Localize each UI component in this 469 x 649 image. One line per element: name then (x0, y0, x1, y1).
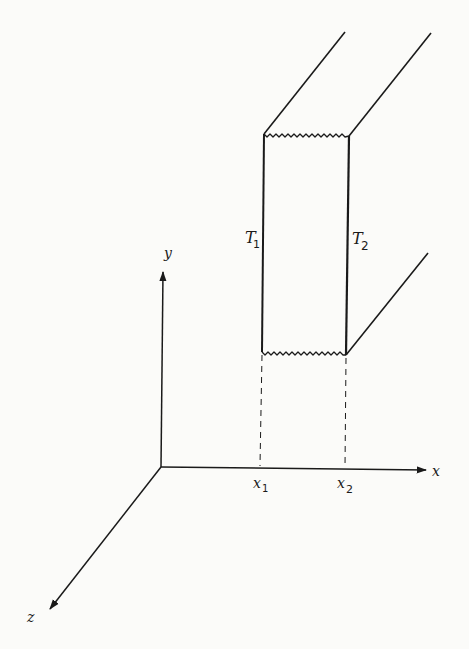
svg-text:1: 1 (262, 483, 268, 494)
x2-projection (345, 358, 346, 468)
tick-x2: x 2 (337, 475, 353, 496)
tick-x1: x 1 (253, 475, 268, 494)
svg-text:1: 1 (253, 238, 260, 251)
z-axis (50, 467, 161, 609)
svg-text:2: 2 (346, 483, 353, 496)
svg-text:2: 2 (361, 239, 369, 253)
label-T1: T 1 (245, 228, 260, 251)
slab-top-right-edge (349, 33, 431, 136)
label-T2: T 2 (352, 229, 369, 253)
slab-top-left-edge (264, 32, 345, 134)
slab-heat-conduction-diagram: y x z x 1 x 2 T 1 T 2 (0, 0, 469, 649)
z-axis-label: z (26, 609, 35, 625)
slab-bottom-right-edge (346, 253, 428, 355)
x-axis (161, 467, 426, 470)
slab-left-face (262, 134, 264, 352)
projection-lines (260, 355, 346, 468)
x1-projection (260, 355, 262, 466)
axes (50, 272, 426, 609)
slab-bottom-break (262, 352, 346, 355)
svg-text:x: x (253, 475, 261, 491)
y-axis-label: y (163, 245, 173, 261)
y-axis (161, 272, 163, 467)
x-axis-label: x (432, 463, 440, 479)
slab (262, 32, 431, 355)
slab-right-face (346, 136, 349, 355)
svg-text:x: x (337, 475, 345, 491)
slab-top-break (264, 134, 349, 137)
